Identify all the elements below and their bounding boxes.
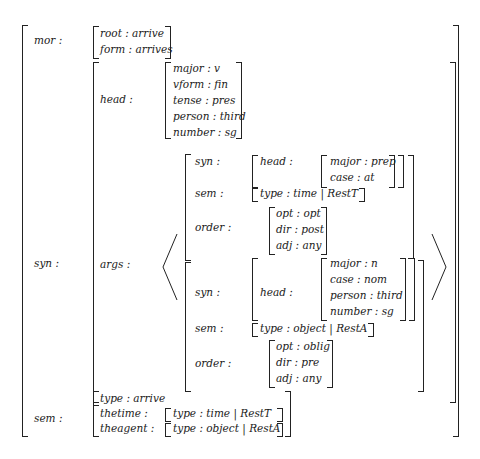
sem-thetime-label: thetime :	[100, 407, 148, 419]
arg1-sem: type : time | RestT	[260, 187, 358, 199]
mor-bracket-right	[165, 26, 171, 59]
arg2-syn-bracket-right	[409, 258, 415, 321]
mor-root: root : arrive	[100, 27, 164, 39]
arg2-sem: type : object | RestA	[260, 322, 367, 334]
arg1-bracket-right-outer	[408, 155, 414, 259]
arg2-order-adj: adj : any	[276, 372, 321, 384]
arg2-head-bracket-left	[321, 258, 327, 321]
arg1-bracket-left	[185, 154, 191, 261]
arg1-order-dir: dir : post	[276, 223, 324, 235]
list-angle-right	[429, 232, 449, 302]
syn-label: syn :	[34, 257, 59, 269]
arg1-sem-bracket-left	[252, 188, 258, 202]
arg1-sem-label: sem :	[195, 187, 223, 199]
arg1-order-bracket-left	[269, 207, 275, 255]
arg2-head-label: head :	[260, 286, 293, 298]
syn-bracket-left	[93, 62, 99, 403]
sem-theagent-label: theagent :	[100, 422, 154, 434]
theagent-bracket-left	[165, 423, 171, 437]
mor-label: mor :	[34, 34, 62, 46]
arg2-head-person: person : third	[330, 289, 403, 301]
arg1-sem-bracket-right	[359, 188, 365, 202]
arg2-sem-bracket-right	[368, 323, 374, 337]
arg2-order-bracket-right	[327, 340, 333, 388]
arg1-order-label: order :	[195, 221, 231, 233]
outer-bracket-left	[22, 25, 28, 437]
thetime-bracket-left	[165, 408, 171, 422]
arg2-head-case: case : nom	[330, 273, 387, 285]
arg1-head-case: case : at	[330, 171, 374, 183]
sem-bracket-right	[285, 391, 291, 437]
arg2-sem-label: sem :	[195, 322, 223, 334]
mor-form: form : arrives	[100, 43, 173, 55]
sem-theagent: type : object | RestA	[173, 422, 280, 434]
list-angle-left	[160, 232, 180, 302]
sem-label: sem :	[34, 412, 62, 424]
arg1-order-adj: adj : any	[276, 239, 321, 251]
arg1-head-bracket-right	[389, 155, 395, 188]
theagent-bracket-right	[277, 423, 283, 437]
head-number: number : sg	[173, 126, 237, 138]
mor-bracket-left	[93, 26, 99, 59]
arg1-head-label: head :	[260, 155, 293, 167]
arg2-syn-label: syn :	[195, 286, 220, 298]
arg2-bracket-right-outer	[418, 260, 424, 392]
syn-head-label: head :	[100, 93, 133, 105]
sem-bracket-left-full	[93, 391, 99, 437]
arg1-head-major: major : prep	[330, 155, 396, 167]
head-person: person : third	[173, 110, 246, 122]
arg2-head-major: major : n	[330, 257, 378, 269]
sem-type: type : arrive	[100, 392, 165, 404]
head-vform: vform : fin	[173, 78, 228, 90]
arg1-syn-label: syn :	[195, 155, 220, 167]
arg1-syn-bracket-right	[398, 155, 404, 188]
arg2-head-bracket-right	[400, 258, 406, 321]
syn-bracket-right	[450, 62, 456, 403]
arg2-syn-bracket-left	[252, 258, 258, 321]
arg2-bracket-left	[185, 262, 191, 392]
head-bracket-right	[236, 62, 242, 139]
arg2-order-dir: dir : pre	[276, 356, 319, 368]
arg2-head-number: number : sg	[330, 305, 394, 317]
arg1-syn-bracket-left	[252, 155, 258, 188]
sem-thetime: type : time | RestT	[173, 407, 271, 419]
arg1-head-bracket-left	[321, 155, 327, 188]
arg2-order-label: order :	[195, 357, 231, 369]
arg2-order-bracket-left	[269, 340, 275, 388]
syn-args-label: args :	[100, 258, 130, 270]
arg1-order-bracket-right	[321, 207, 327, 255]
head-major: major : v	[173, 62, 220, 74]
arg2-order-opt: opt : oblig	[276, 340, 330, 352]
thetime-bracket-right	[277, 408, 283, 422]
arg2-sem-bracket-left	[252, 323, 258, 337]
head-bracket-left	[165, 62, 171, 139]
head-tense: tense : pres	[173, 94, 235, 106]
arg1-order-opt: opt : opt	[276, 207, 321, 219]
